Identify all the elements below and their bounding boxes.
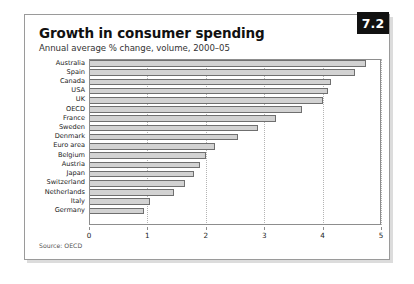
bar (89, 152, 206, 159)
bar-row: Switzerland (89, 179, 381, 188)
chart-subtitle: Annual average % change, volume, 2000–05 (39, 43, 230, 53)
screenshot-root: 7.2 Growth in consumer spending Annual a… (0, 0, 414, 284)
x-tick-label-5: 5 (379, 231, 384, 240)
bar (89, 180, 185, 187)
chart-card: 7.2 Growth in consumer spending Annual a… (24, 14, 390, 260)
bar (89, 162, 200, 169)
category-label: Germany (55, 206, 85, 215)
x-tick-label-1: 1 (145, 231, 150, 240)
x-tick-label-4: 4 (320, 231, 325, 240)
tick-mark-1 (147, 227, 148, 230)
plot-area: AustraliaSpainCanadaUSAUKOECDFranceSwede… (89, 59, 381, 225)
bar-rows: AustraliaSpainCanadaUSAUKOECDFranceSwede… (89, 59, 381, 225)
x-tick-label-0: 0 (87, 231, 92, 240)
tick-mark-3 (264, 227, 265, 230)
bar-row: France (89, 114, 381, 123)
bar (89, 79, 331, 86)
bar-row: OECD (89, 105, 381, 114)
category-label: Switzerland (47, 178, 85, 187)
bar-row: Japan (89, 170, 381, 179)
category-label: Japan (67, 169, 85, 178)
gridline-5 (381, 59, 382, 225)
category-label: OECD (66, 105, 85, 114)
category-label: Australia (56, 59, 85, 68)
bar-row: Canada (89, 77, 381, 86)
category-label: Canada (60, 77, 85, 86)
bar-row: USA (89, 87, 381, 96)
category-label: Austria (62, 160, 85, 169)
x-tick-label-3: 3 (262, 231, 267, 240)
category-label: Belgium (58, 151, 85, 160)
bar-row: Denmark (89, 133, 381, 142)
bar-row: Austria (89, 160, 381, 169)
tick-mark-0 (89, 227, 90, 230)
bar-row: Australia (89, 59, 381, 68)
category-label: Denmark (55, 132, 85, 141)
tick-mark-5 (381, 227, 382, 230)
x-axis-ticks: 012345 (89, 227, 381, 241)
bar-row: Germany (89, 207, 381, 216)
bar (89, 69, 355, 76)
bar (89, 189, 174, 196)
bar-row: Sweden (89, 124, 381, 133)
bar-row: Belgium (89, 151, 381, 160)
bar (89, 60, 366, 67)
category-label: Netherlands (45, 188, 85, 197)
category-label: Spain (67, 68, 85, 77)
chart-number-badge: 7.2 (357, 12, 389, 34)
source-note: Source: OECD (39, 242, 82, 249)
bar (89, 125, 258, 132)
bar (89, 143, 215, 150)
category-label: Italy (71, 197, 85, 206)
bar (89, 134, 238, 141)
tick-mark-4 (323, 227, 324, 230)
category-label: Sweden (59, 123, 85, 132)
bar (89, 106, 302, 113)
bar-row: UK (89, 96, 381, 105)
tick-mark-2 (206, 227, 207, 230)
bar-row: Spain (89, 68, 381, 77)
bar-row: Euro area (89, 142, 381, 151)
bar (89, 97, 323, 104)
bar (89, 88, 328, 95)
category-label: France (63, 114, 85, 123)
bar (89, 208, 144, 215)
bar (89, 198, 150, 205)
bar (89, 115, 276, 122)
category-label: Euro area (53, 141, 85, 150)
category-label: UK (76, 95, 85, 104)
chart-title: Growth in consumer spending (39, 25, 265, 41)
bar (89, 171, 194, 178)
category-label: USA (71, 86, 85, 95)
bar-row: Italy (89, 197, 381, 206)
bar-row: Netherlands (89, 188, 381, 197)
x-tick-label-2: 2 (204, 231, 209, 240)
